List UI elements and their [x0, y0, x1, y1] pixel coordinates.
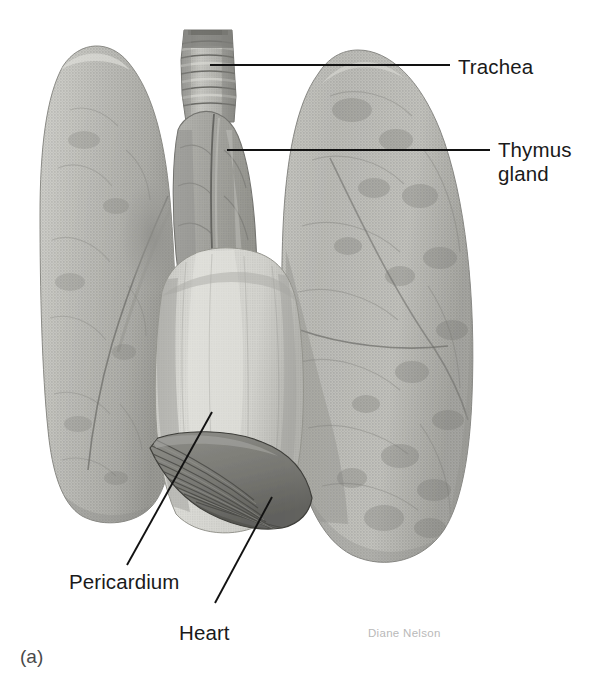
- label-thymus-gland-line1: Thymus: [498, 138, 572, 161]
- figure-container: Trachea Thymus gland Pericardium Heart (…: [0, 0, 609, 693]
- artist-credit: Diane Nelson: [368, 627, 441, 639]
- panel-letter: (a): [20, 646, 43, 667]
- anatomy-illustration: Trachea Thymus gland Pericardium Heart (…: [0, 0, 609, 693]
- label-pericardium: Pericardium: [69, 570, 179, 593]
- label-thymus-gland-line2: gland: [498, 162, 549, 185]
- label-heart: Heart: [179, 621, 230, 644]
- label-trachea: Trachea: [458, 55, 534, 78]
